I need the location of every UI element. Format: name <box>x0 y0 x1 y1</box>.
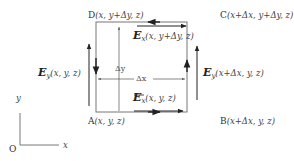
ex-bottom-label: Ex(x, y, z) <box>132 91 176 105</box>
dy-label: Δy <box>115 64 126 73</box>
corner-d-label: D(x, y+Δy, z) <box>88 10 144 20</box>
x-axis-label: x <box>63 140 68 150</box>
dx-label: Δx <box>136 74 147 83</box>
y-axis-label: y <box>15 93 21 103</box>
ey-right-label: Ey(x+Δx, y, z) <box>202 66 264 80</box>
ex-top-label: Ex(x, y+Δy, z) <box>132 29 194 43</box>
ey-left-label: Ey(x, y, z) <box>37 66 81 80</box>
corner-b-label: B(x+Δx, y, z) <box>220 116 275 126</box>
corner-a-label: A(x, y, z) <box>87 116 125 126</box>
rectangular-loop-diagram: D(x, y+Δy, z) C(x+Δx, y+Δy, z) A(x, y, z… <box>0 0 294 161</box>
origin-label: O <box>9 144 16 154</box>
corner-c-label: C(x+Δx, y+Δy, z) <box>220 10 293 20</box>
